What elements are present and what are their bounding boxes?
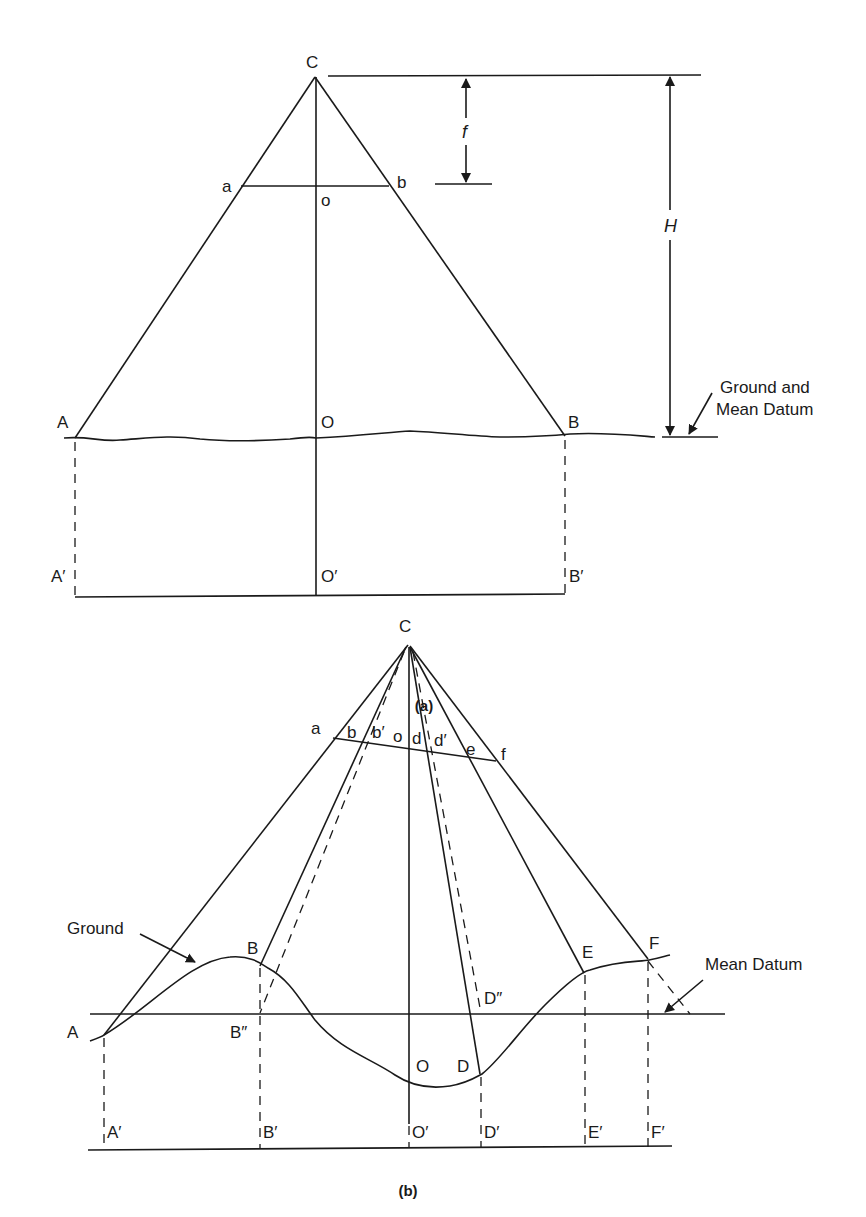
label-B: B [247,939,258,958]
map-line [88,1146,672,1150]
annotation-ground-and: Ground and [720,378,810,397]
label-A: A [57,413,69,432]
ground-line [64,431,655,441]
figure-b: C a b b′ o d d′ e f A B B″ O D D″ E F A′… [67,617,802,1199]
label-a: a [311,719,321,738]
map-line [75,594,565,597]
label-C: C [306,53,318,72]
ground-annotation-arrow [140,934,195,962]
annotation-mean-datum: Mean Datum [716,400,813,419]
label-D: D [457,1057,469,1076]
label-A-prime: A′ [107,1123,122,1142]
label-O-prime: O′ [412,1123,428,1142]
diagram-canvas: C a b o f H A O B A′ O′ B′ Ground and Me… [0,0,866,1217]
label-H: H [664,216,678,236]
label-d-prime: d′ [434,731,447,750]
label-e: e [466,740,475,759]
label-D-prime: D′ [484,1123,499,1142]
label-a: a [222,177,232,196]
label-B-double-prime: B″ [230,1023,247,1042]
ground-annotation-arrow [689,393,712,434]
label-E: E [582,943,593,962]
ray-CA [104,645,408,1035]
label-A: A [67,1023,79,1042]
label-D-double-prime: D″ [484,989,502,1008]
mean-datum-annotation-arrow [665,980,703,1012]
label-f: f [462,122,469,142]
ray-CB-double-prime [260,652,404,1013]
label-B-prime: B′ [263,1123,278,1142]
label-b: b [397,173,406,192]
label-B: B [568,413,579,432]
label-F: F [649,934,659,953]
ray-CB [315,77,565,436]
label-b-prime: b′ [372,723,385,742]
label-E-prime: E′ [588,1123,603,1142]
label-b: b [347,723,356,742]
label-O: O [416,1057,429,1076]
ray-CF-extension [648,961,690,1014]
figure-a: C a b o f H A O B A′ O′ B′ Ground and Me… [51,53,813,714]
label-o: o [321,191,330,210]
caption-a: (a) [415,697,433,714]
ray-CA [75,77,315,438]
label-F-prime: F′ [651,1123,665,1142]
label-C: C [399,617,411,636]
label-f: f [501,745,506,764]
ground-annotation: Ground [67,919,124,938]
ground-curve [90,955,670,1087]
ray-CD-double-prime [413,652,481,1013]
label-o: o [393,727,402,746]
label-A-prime: A′ [51,567,66,586]
label-d: d [412,729,421,748]
caption-b: (b) [398,1182,417,1199]
mean-datum-annotation: Mean Datum [705,955,802,974]
label-B-prime: B′ [569,567,584,586]
top-reference-line [328,75,701,76]
ray-CF [410,646,648,959]
label-O-prime: O′ [321,567,337,586]
label-O: O [321,413,334,432]
